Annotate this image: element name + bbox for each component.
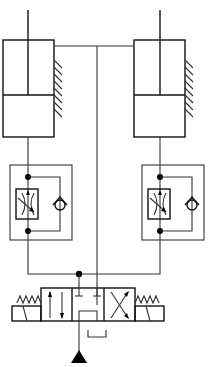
hydraulic-circuit-diagram	[0, 0, 221, 367]
solenoid-right	[135, 306, 164, 321]
spring-right	[135, 296, 159, 303]
spring-left	[17, 296, 41, 303]
valve-position-crossed	[111, 291, 129, 319]
flow-control-enclosure-left	[10, 165, 72, 240]
pressure-source	[71, 321, 87, 363]
valve-position-parallel	[48, 291, 64, 319]
pressure-source-icon	[71, 350, 87, 363]
flow-control-enclosure-right	[142, 165, 204, 240]
flow-control-left	[10, 137, 72, 244]
tank	[88, 330, 106, 337]
tank-icon	[88, 330, 106, 337]
flow-control-right	[142, 137, 204, 244]
mounting-hatch-right	[185, 60, 193, 117]
valve-body	[41, 288, 135, 321]
rod-side-supply-line	[54, 46, 134, 305]
mounting-hatch-left	[54, 60, 62, 117]
directional-valve	[12, 288, 164, 321]
cylinder-left	[3, 10, 62, 137]
solenoid-left	[12, 306, 41, 321]
cylinder-right	[134, 10, 193, 137]
cap-side-supply-line	[28, 244, 160, 288]
